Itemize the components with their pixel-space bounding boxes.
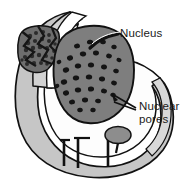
chromatin-speck [34, 31, 38, 35]
chromatin-speck [47, 39, 51, 43]
diagram-canvas: Nucleus Nuclear pores [0, 0, 192, 191]
chromatin-speck [20, 58, 23, 61]
chromatin-speck [33, 39, 37, 43]
chromatin-speck [47, 33, 51, 37]
cytoplasmic-blob [105, 127, 131, 144]
nuclear-pore [88, 63, 94, 68]
nucleus-diagram-figure: Nucleus Nuclear pores [0, 0, 192, 191]
label-nuclear-pores-line1: Nuclear [139, 100, 179, 112]
chromatin-speck [39, 61, 43, 65]
nucleus [54, 26, 134, 123]
label-nucleus: Nucleus [120, 27, 162, 39]
label-nuclear-pores-line2: pores [139, 113, 168, 125]
nuclear-pore [86, 75, 92, 80]
chromatin-speck [37, 53, 41, 57]
chromatin-speck [50, 56, 54, 60]
